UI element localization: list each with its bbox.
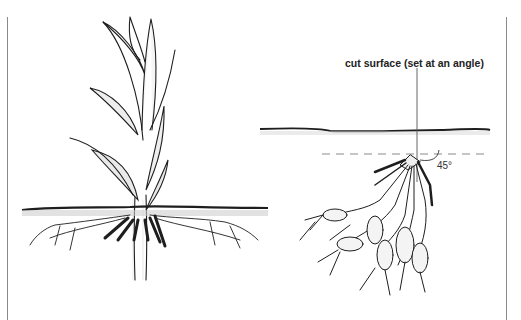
left-roots <box>30 215 258 250</box>
cut-surface-label: cut surface (set at an angle) <box>345 57 484 69</box>
angle-arc <box>420 150 439 161</box>
right-soil-surface <box>260 128 490 135</box>
right-root-cluster <box>300 155 432 295</box>
left-soil-surface <box>22 206 268 216</box>
angle-label: 45° <box>437 160 452 171</box>
